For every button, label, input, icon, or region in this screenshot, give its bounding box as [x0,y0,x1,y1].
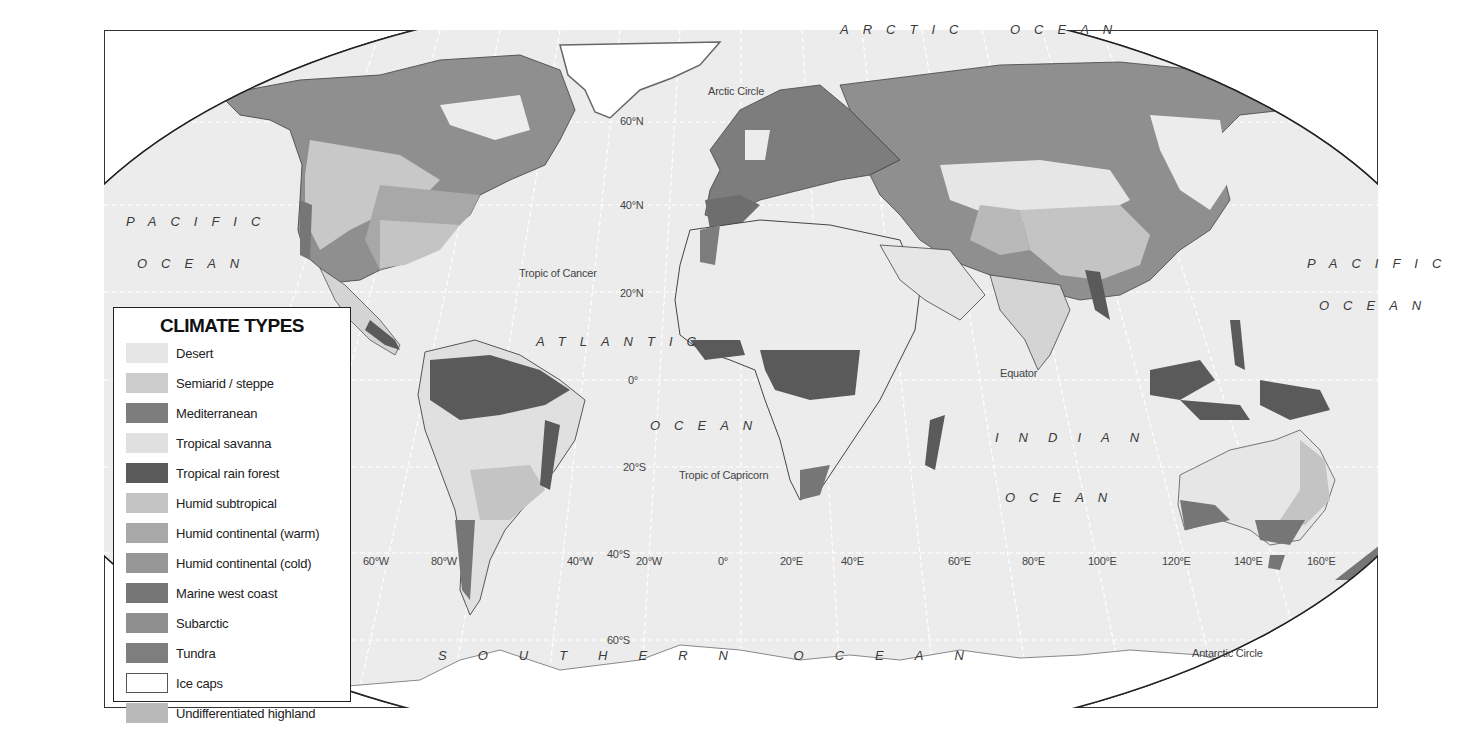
longitude-label: 60°E [948,555,971,567]
legend-item: Undifferentiated highland [126,702,315,724]
ocean-label-arctic-2: OCEAN [1010,22,1126,37]
legend-item: Ice caps [126,672,223,694]
ocean-label-pacific-west-1: PACIFIC [126,214,274,229]
ocean-label-pacific-west-2: OCEAN [137,256,253,271]
longitude-label: 80°E [1022,555,1045,567]
legend-label: Undifferentiated highland [176,706,315,721]
ocean-label-pacific-east-2: OCEAN [1319,298,1435,313]
latitude-label: 0° [628,374,638,386]
antarctic-circle-label: Antarctic Circle [1192,647,1263,659]
legend-label: Tundra [176,646,216,661]
longitude-label: 100°E [1088,555,1117,567]
ocean-label-southern: SOUTHERN OCEAN [438,648,995,663]
legend-label: Humid subtropical [176,496,277,511]
legend-item: Marine west coast [126,582,277,604]
legend-item: Tropical savanna [126,432,271,454]
ocean-label-pacific-east-1: PACIFIC [1307,256,1455,271]
legend-item: Humid continental (warm) [126,522,319,544]
ocean-label-atlantic-2: OCEAN [650,418,766,433]
latitude-label: 40°N [620,199,643,211]
longitude-label: 80°W [431,555,457,567]
legend-swatch [126,373,168,393]
latitude-label: 20°S [623,461,646,473]
legend-title: CLIMATE TYPES [114,315,350,337]
legend-item: Tundra [126,642,216,664]
longitude-label: 0° [718,555,728,567]
legend-swatch [126,343,168,363]
legend-label: Marine west coast [176,586,277,601]
ocean-label-indian-1: INDIAN [995,430,1159,445]
legend-swatch [126,463,168,483]
equator-label: Equator [1000,367,1037,379]
legend-swatch [126,673,168,693]
legend-label: Humid continental (warm) [176,526,319,541]
legend-swatch [126,523,168,543]
ocean-label-arctic-1: ARCTIC [840,22,972,37]
legend-item: Humid continental (cold) [126,552,311,574]
legend-swatch [126,583,168,603]
legend-swatch [126,403,168,423]
legend-item: Desert [126,342,213,364]
longitude-label: 60°W [363,555,389,567]
legend-swatch [126,613,168,633]
legend-label: Humid continental (cold) [176,556,311,571]
legend-item: Humid subtropical [126,492,277,514]
legend-label: Ice caps [176,676,223,691]
legend-label: Desert [176,346,213,361]
legend-swatch [126,433,168,453]
legend-label: Mediterranean [176,406,257,421]
latitude-label: 60°N [620,115,643,127]
legend-label: Tropical savanna [176,436,271,451]
latitude-label: 60°S [607,634,630,646]
longitude-label: 20°W [636,555,662,567]
legend-item: Subarctic [126,612,228,634]
tropic-of-cancer-label: Tropic of Cancer [519,267,597,279]
legend-item: Tropical rain forest [126,462,279,484]
legend-item: Semiarid / steppe [126,372,274,394]
latitude-label: 20°N [620,287,643,299]
arctic-circle-label: Arctic Circle [708,85,764,97]
legend-swatch [126,703,168,723]
legend-label: Tropical rain forest [176,466,279,481]
longitude-label: 120°E [1162,555,1191,567]
climate-legend: CLIMATE TYPES DesertSemiarid / steppeMed… [113,307,351,702]
legend-label: Semiarid / steppe [176,376,274,391]
longitude-label: 140°E [1234,555,1263,567]
ocean-label-atlantic-1: ATLANTIC [536,334,710,349]
legend-item: Mediterranean [126,402,257,424]
legend-swatch [126,553,168,573]
tropic-of-capricorn-label: Tropic of Capricorn [679,469,768,481]
longitude-label: 40°E [841,555,864,567]
legend-label: Subarctic [176,616,228,631]
longitude-label: 160°E [1307,555,1336,567]
legend-swatch [126,493,168,513]
ocean-label-indian-2: OCEAN [1005,490,1121,505]
legend-swatch [126,643,168,663]
longitude-label: 40°W [567,555,593,567]
longitude-label: 20°E [780,555,803,567]
latitude-label: 40°S [607,548,630,560]
